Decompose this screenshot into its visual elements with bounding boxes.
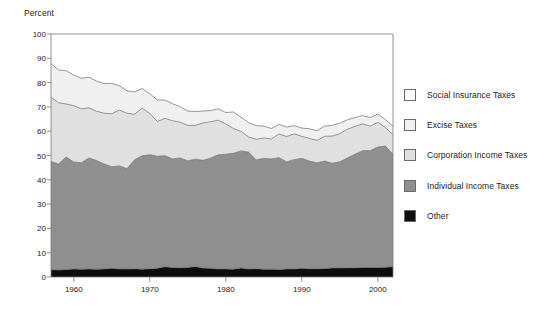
- legend-item-label: Corporation Income Taxes: [427, 150, 527, 160]
- legend-item[interactable]: Corporation Income Taxes: [404, 148, 551, 162]
- x-axis-tick-2000: 2000: [369, 285, 387, 294]
- y-axis-tick-40: 40: [24, 175, 46, 184]
- legend-item[interactable]: Individual Income Taxes: [404, 179, 551, 193]
- y-axis-tick-60: 60: [24, 127, 46, 136]
- y-axis-tick-30: 30: [24, 200, 46, 209]
- legend-item[interactable]: Excise Taxes: [404, 118, 551, 132]
- legend-item-label: Other: [427, 211, 449, 221]
- legend-swatch-icon: [404, 119, 416, 131]
- y-axis-tick-50: 50: [24, 151, 46, 160]
- legend-swatch-icon: [404, 210, 416, 222]
- legend-swatch-icon: [404, 149, 416, 161]
- chart-legend: Social Insurance TaxesExcise TaxesCorpor…: [404, 88, 551, 239]
- y-axis-tick-0: 0: [24, 273, 46, 282]
- legend-item-label: Individual Income Taxes: [427, 181, 519, 191]
- legend-swatch-icon: [404, 180, 416, 192]
- area-band-individual-income-taxes: [51, 146, 393, 270]
- y-axis-tick-labels: 0102030405060708090100: [22, 0, 46, 318]
- legend-item[interactable]: Other: [404, 209, 551, 223]
- y-axis-tick-90: 90: [24, 54, 46, 63]
- stacked-area-chart: Percent 0102030405060708090100 196019701…: [0, 0, 551, 318]
- legend-item-label: Excise Taxes: [427, 120, 477, 130]
- y-axis-tick-70: 70: [24, 102, 46, 111]
- y-axis-tick-80: 80: [24, 78, 46, 87]
- legend-item-label: Social Insurance Taxes: [427, 90, 515, 100]
- x-axis-tick-1980: 1980: [217, 285, 235, 294]
- y-axis-tick-10: 10: [24, 248, 46, 257]
- legend-swatch-icon: [404, 89, 416, 101]
- x-axis-tick-1990: 1990: [293, 285, 311, 294]
- x-axis-tick-1960: 1960: [65, 285, 83, 294]
- legend-item[interactable]: Social Insurance Taxes: [404, 88, 551, 102]
- y-axis-tick-100: 100: [24, 30, 46, 39]
- y-axis-tick-20: 20: [24, 224, 46, 233]
- x-axis-tick-1970: 1970: [141, 285, 159, 294]
